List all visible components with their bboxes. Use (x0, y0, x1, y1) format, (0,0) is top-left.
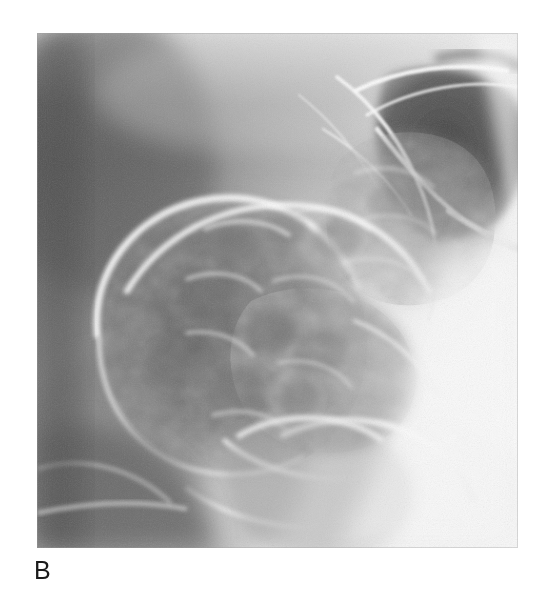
xray-plate-icon (37, 33, 518, 548)
radiograph-image (37, 33, 518, 548)
panel-label: B (34, 558, 51, 583)
figure-panel: B (0, 0, 555, 590)
left-margin-shadow (37, 33, 83, 548)
